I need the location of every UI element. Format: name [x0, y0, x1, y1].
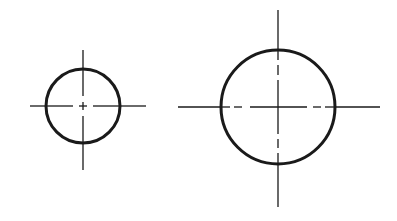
large-circle-group [178, 10, 380, 207]
small-circle-group [30, 50, 146, 170]
centerline-diagram [0, 0, 397, 221]
drawing-canvas [0, 0, 397, 221]
